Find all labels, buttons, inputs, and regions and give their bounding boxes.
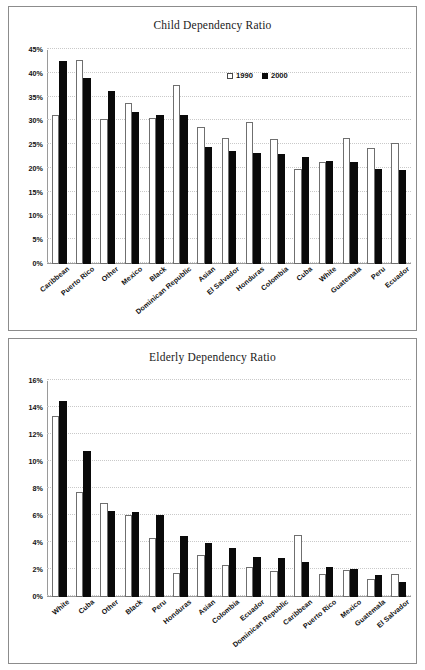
bar-group bbox=[362, 381, 386, 597]
bar-2000 bbox=[253, 557, 260, 598]
bar-2000 bbox=[108, 511, 115, 597]
x-tick-label: Black bbox=[124, 598, 144, 617]
bar-group bbox=[47, 50, 71, 264]
bar-1990 bbox=[197, 555, 204, 597]
x-tick-label: Asian bbox=[197, 598, 217, 617]
bar-group bbox=[144, 381, 168, 597]
x-tick-label: Black bbox=[149, 265, 169, 284]
bar-1990 bbox=[52, 416, 59, 597]
bar-group bbox=[168, 381, 192, 597]
bars-elderly bbox=[47, 381, 411, 597]
bar-2000 bbox=[83, 78, 90, 264]
bar-group bbox=[338, 50, 362, 264]
bar-2000 bbox=[302, 562, 309, 597]
bar-1990 bbox=[343, 570, 350, 597]
y-tick-label: 12% bbox=[29, 430, 43, 439]
bar-1990 bbox=[149, 538, 156, 597]
page-root: Child Dependency Ratio 1990 2000 0%5%10%… bbox=[0, 0, 425, 670]
bar-1990 bbox=[125, 103, 132, 264]
bar-2000 bbox=[59, 61, 66, 264]
bar-group bbox=[338, 381, 362, 597]
bar-group bbox=[96, 381, 120, 597]
bar-group bbox=[71, 381, 95, 597]
bar-group bbox=[290, 381, 314, 597]
bar-1990 bbox=[391, 143, 398, 264]
bar-1990 bbox=[270, 139, 277, 264]
bar-2000 bbox=[326, 161, 333, 264]
bar-1990 bbox=[173, 573, 180, 597]
bar-group bbox=[120, 50, 144, 264]
bar-1990 bbox=[222, 565, 229, 597]
bar-1990 bbox=[367, 579, 374, 597]
bar-1990 bbox=[391, 574, 398, 597]
bar-1990 bbox=[76, 492, 83, 597]
bar-2000 bbox=[278, 154, 285, 264]
bar-2000 bbox=[108, 91, 115, 264]
x-tick-label: White bbox=[51, 598, 71, 617]
bar-2000 bbox=[375, 575, 382, 597]
x-tick-label: Peru bbox=[369, 265, 387, 282]
bar-group bbox=[144, 50, 168, 264]
bar-2000 bbox=[132, 512, 139, 597]
bar-1990 bbox=[100, 119, 107, 264]
bar-2000 bbox=[399, 582, 406, 597]
bar-2000 bbox=[399, 170, 406, 264]
bar-group bbox=[241, 381, 265, 597]
bar-1990 bbox=[343, 138, 350, 264]
bar-2000 bbox=[205, 147, 212, 264]
bar-group bbox=[387, 50, 411, 264]
y-tick-label: 10% bbox=[29, 211, 43, 220]
x-tick-label: Ecuador bbox=[384, 265, 411, 290]
x-tick-label: Other bbox=[100, 598, 120, 617]
bar-2000 bbox=[59, 401, 66, 597]
y-tick-label: 6% bbox=[33, 511, 43, 520]
y-tick-label: 5% bbox=[33, 235, 43, 244]
y-tick-label: 45% bbox=[29, 45, 43, 54]
bar-group bbox=[387, 381, 411, 597]
bar-group bbox=[265, 50, 289, 264]
bar-2000 bbox=[83, 451, 90, 597]
bar-group bbox=[217, 381, 241, 597]
bar-1990 bbox=[52, 115, 59, 264]
bar-2000 bbox=[229, 548, 236, 597]
y-tick-label: 16% bbox=[29, 376, 43, 385]
bar-1990 bbox=[149, 118, 156, 264]
bar-1990 bbox=[294, 169, 301, 264]
bar-2000 bbox=[278, 558, 285, 597]
bar-1990 bbox=[125, 515, 132, 597]
plot-area-child: 0%5%10%15%20%25%30%35%40%45% bbox=[47, 50, 411, 264]
y-tick-label: 40% bbox=[29, 68, 43, 77]
bar-2000 bbox=[205, 543, 212, 597]
bar-group bbox=[362, 50, 386, 264]
bar-group bbox=[217, 50, 241, 264]
bar-group bbox=[47, 381, 71, 597]
y-tick-label: 8% bbox=[33, 484, 43, 493]
bar-group bbox=[314, 381, 338, 597]
chart-title-child: Child Dependency Ratio bbox=[9, 19, 416, 31]
bar-2000 bbox=[350, 569, 357, 597]
bar-group bbox=[193, 50, 217, 264]
y-tick-label: 4% bbox=[33, 538, 43, 547]
bar-1990 bbox=[270, 571, 277, 597]
bar-2000 bbox=[350, 162, 357, 264]
bar-1990 bbox=[100, 503, 107, 598]
chart-title-elderly: Elderly Dependency Ratio bbox=[9, 351, 416, 363]
bar-2000 bbox=[229, 151, 236, 264]
bar-2000 bbox=[253, 153, 260, 264]
x-tick-label: Cuba bbox=[77, 598, 96, 616]
bar-group bbox=[314, 50, 338, 264]
bar-1990 bbox=[197, 127, 204, 264]
bar-1990 bbox=[222, 138, 229, 264]
x-tick-label: White bbox=[318, 265, 338, 284]
bar-2000 bbox=[156, 115, 163, 264]
y-tick-label: 10% bbox=[29, 457, 43, 466]
y-tick-label: 15% bbox=[29, 187, 43, 196]
bar-group bbox=[265, 381, 289, 597]
bar-1990 bbox=[294, 535, 301, 597]
bar-1990 bbox=[319, 574, 326, 597]
bar-2000 bbox=[132, 112, 139, 264]
x-tick-label: Cuba bbox=[295, 265, 314, 283]
bars-child bbox=[47, 50, 411, 264]
bar-2000 bbox=[156, 515, 163, 597]
bar-group bbox=[290, 50, 314, 264]
